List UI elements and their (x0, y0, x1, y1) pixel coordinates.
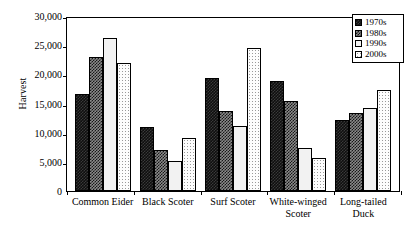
x-axis-category-labels: Common EiderBlack ScoterSurf ScoterWhite… (66, 196, 400, 219)
y-axis-tick-label: 25,000 (6, 41, 62, 51)
bar (75, 94, 89, 191)
legend-swatch-icon (355, 30, 362, 37)
legend: 1970s1980s1990s2000s (352, 14, 404, 63)
bar-chart-figure: Harvest 30,00025,00020,00015,00010,0005,… (0, 0, 416, 234)
legend-item: 1990s (355, 39, 400, 49)
bar (270, 81, 284, 191)
legend-item-label: 1990s (365, 39, 387, 48)
bar-group (270, 18, 326, 191)
x-axis-tick-mark (134, 191, 135, 195)
y-axis-tick-label: 0 (6, 187, 62, 197)
bar (140, 127, 154, 191)
x-axis-category-label: White-winged Scoter (266, 196, 330, 219)
y-axis-tick-label: 15,000 (6, 100, 62, 110)
legend-item-label: 2000s (365, 50, 387, 59)
bar (377, 90, 391, 191)
bar (233, 126, 247, 191)
legend-item: 2000s (355, 49, 400, 59)
bar-group (205, 18, 261, 191)
bar (154, 150, 168, 191)
bar (182, 138, 196, 191)
bar (117, 63, 131, 191)
bar-group (140, 18, 196, 191)
bar (89, 57, 103, 191)
bar-groups (67, 18, 399, 191)
legend-swatch-icon (355, 19, 362, 26)
bar-group (75, 18, 131, 191)
y-axis-tick-label: 30,000 (6, 12, 62, 22)
bar (349, 113, 363, 191)
legend-swatch-icon (355, 51, 362, 58)
bar (312, 158, 326, 191)
x-axis-tick-mark (67, 191, 68, 195)
x-axis-category-label: Common Eider (71, 196, 135, 219)
legend-swatch-icon (355, 40, 362, 47)
y-axis-tick-labels: 30,00025,00020,00015,00010,0005,0000 (6, 12, 62, 192)
bar (363, 108, 377, 191)
x-axis-tick-mark (267, 191, 268, 195)
bar (103, 38, 117, 191)
x-axis-category-label: Black Scoter (136, 196, 200, 219)
x-axis-tick-mark (401, 191, 402, 195)
x-axis-category-label: Long-tailed Duck (331, 196, 395, 219)
legend-item-label: 1970s (365, 18, 387, 27)
legend-item-label: 1980s (365, 29, 387, 38)
y-axis-tick-label: 5,000 (6, 158, 62, 168)
x-axis-category-label: Surf Scoter (201, 196, 265, 219)
bar (335, 120, 349, 191)
y-axis-tick-label: 10,000 (6, 129, 62, 139)
y-axis-tick-label: 20,000 (6, 70, 62, 80)
legend-item: 1970s (355, 18, 400, 28)
bar (219, 111, 233, 191)
plot-area (66, 17, 400, 192)
x-axis-tick-mark (201, 191, 202, 195)
bar (168, 161, 182, 191)
bar (284, 101, 298, 191)
bar (247, 48, 261, 192)
bar (205, 78, 219, 191)
x-axis-tick-mark (334, 191, 335, 195)
bar (298, 148, 312, 191)
legend-item: 1980s (355, 28, 400, 38)
